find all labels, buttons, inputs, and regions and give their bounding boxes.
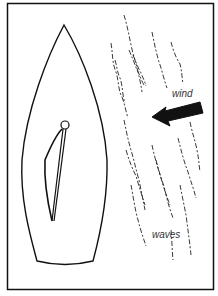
wind-label: wind (172, 88, 193, 99)
diagram-frame: wind waves (0, 0, 218, 296)
wind-arrow-icon (152, 102, 203, 126)
mast-icon (61, 121, 69, 129)
sailboat-diagram (0, 0, 218, 296)
border (8, 4, 214, 290)
wave-lines (111, 15, 200, 260)
waves-label: waves (152, 229, 180, 240)
